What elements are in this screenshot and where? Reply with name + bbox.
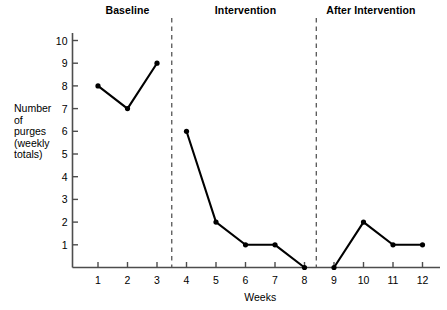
y-axis-tick-label: 7: [62, 103, 68, 115]
x-axis-tick-label: 10: [358, 274, 370, 286]
y-axis-tick-label: 10: [56, 35, 68, 47]
data-point-marker: [125, 106, 130, 111]
data-point-marker: [420, 242, 425, 247]
data-line-group: [98, 63, 423, 267]
phase-dividers-group: [172, 18, 317, 268]
x-axis-tick-label: 4: [184, 274, 190, 286]
data-markers-group: [95, 61, 425, 271]
x-axis-tick-label: 1: [95, 274, 101, 286]
y-axis-tick-label: 1: [62, 239, 68, 251]
data-point-marker: [331, 265, 336, 270]
x-axis-tick-label: 8: [302, 274, 308, 286]
data-point-marker: [302, 265, 307, 270]
data-point-marker: [184, 129, 189, 134]
data-point-marker: [390, 242, 395, 247]
x-axis-tick-label: 12: [417, 274, 429, 286]
chart-container: Baseline Intervention After Intervention…: [0, 0, 447, 310]
x-axis-tick-label: 3: [154, 274, 160, 286]
y-axis-tick-label: 8: [62, 80, 68, 92]
x-axis-tick-label: 11: [388, 274, 399, 286]
data-point-marker: [361, 220, 366, 225]
y-axis-tick-label: 9: [62, 57, 68, 69]
y-axis-tick-label: 4: [62, 171, 68, 183]
x-axis-tick-label: 5: [213, 274, 219, 286]
x-axis-tick-label: 7: [272, 274, 278, 286]
data-line-segment: [98, 63, 157, 108]
x-axis-tick-label: 9: [331, 274, 337, 286]
data-point-marker: [243, 242, 248, 247]
data-line-segment: [334, 222, 423, 267]
data-point-marker: [95, 83, 100, 88]
data-point-marker: [272, 242, 277, 247]
data-point-marker: [154, 61, 159, 66]
y-axis-tick-label: 3: [62, 193, 68, 205]
x-axis-tick-label: 2: [125, 274, 131, 286]
axes-group: [73, 33, 441, 268]
y-axis-tick-label: 6: [62, 125, 68, 137]
data-point-marker: [213, 220, 218, 225]
x-axis-tick-label: 6: [243, 274, 249, 286]
y-axis-tick-label: 2: [62, 216, 68, 228]
y-axis-tick-label: 5: [62, 148, 68, 160]
